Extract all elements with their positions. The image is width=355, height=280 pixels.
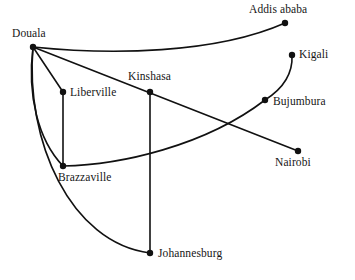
node-dot-johannesburg[interactable] [147, 250, 153, 256]
node-label-bujumbura: Bujumbura [273, 96, 326, 108]
edges-group [31, 23, 298, 253]
node-dot-brazzaville[interactable] [60, 163, 66, 169]
edge-douala-liberville [33, 47, 63, 92]
node-dot-nairobi[interactable] [295, 148, 301, 154]
node-dot-kigali[interactable] [289, 52, 295, 58]
node-dot-douala[interactable] [30, 44, 36, 50]
edge-douala-nairobi [33, 47, 298, 151]
edge-douala-brazzaville [31, 47, 63, 166]
graph-svg-layer [0, 0, 355, 280]
edge-douala-addis_ababa [33, 23, 285, 51]
route-graph-diagram: DoualaAddis ababaKigaliBujumburaNairobiK… [0, 0, 355, 280]
node-label-kigali: Kigali [299, 49, 328, 61]
nodes-group [30, 20, 301, 256]
node-label-kinshasa: Kinshasa [128, 71, 171, 83]
node-label-nairobi: Nairobi [275, 157, 311, 169]
node-label-johannesburg: Johannesburg [158, 248, 222, 260]
node-dot-addis_ababa[interactable] [282, 20, 288, 26]
edge-brazzaville-bujumbura [63, 100, 265, 166]
node-dot-bujumbura[interactable] [262, 97, 268, 103]
node-label-liberville: Liberville [70, 87, 116, 99]
node-label-douala: Douala [12, 28, 46, 40]
node-label-brazzaville: Brazzaville [58, 172, 111, 184]
edge-bujumbura-kigali [265, 55, 292, 100]
node-dot-liberville[interactable] [60, 89, 66, 95]
node-label-addis_ababa: Addis ababa [249, 4, 307, 16]
node-dot-kinshasa[interactable] [147, 89, 153, 95]
